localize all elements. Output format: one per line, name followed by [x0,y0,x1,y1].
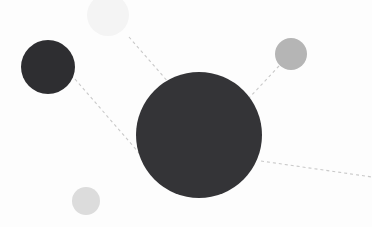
hub-node[interactable] [136,72,262,198]
diagram-canvas [0,0,372,227]
satellite-node-upper-right[interactable] [275,38,307,70]
node-graph-svg [0,0,372,227]
satellite-node-lower-left[interactable] [72,187,100,215]
satellite-node-upper-left[interactable] [21,40,75,94]
